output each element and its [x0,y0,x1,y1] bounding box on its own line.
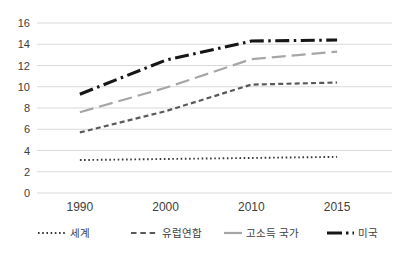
legend-item: 유럽연합 [131,226,202,240]
chart-legend: 세계유럽연합고소득 국가미국 [0,226,396,246]
y-axis-tick-label: 4 [24,145,30,157]
legend-label: 세계 [70,226,90,240]
x-axis-tick-label: 2010 [238,200,265,214]
legend-line-sample-icon [224,230,242,236]
plot-area: 02468101214161990200020102015 [0,0,396,222]
x-axis-tick-label: 2000 [152,200,179,214]
x-axis-tick-label: 2015 [324,200,351,214]
legend-label: 유럽연합 [162,226,202,240]
y-axis-tick-label: 0 [24,187,30,199]
series-line-3 [80,40,337,94]
legend-item: 세계 [38,226,90,240]
y-axis-tick-label: 2 [24,166,30,178]
series-line-0 [80,157,337,160]
legend-line-sample-icon [38,230,66,236]
legend-item: 미국 [327,226,378,240]
line-chart-figure: 02468101214161990200020102015 세계유럽연합고소득 … [0,0,396,254]
series-line-2 [80,52,337,113]
legend-line-sample-icon [327,230,354,236]
y-axis-tick-label: 14 [18,38,30,50]
y-axis-tick-label: 6 [24,123,30,135]
y-axis-tick-label: 10 [18,81,30,93]
legend-label: 고소득 국가 [246,226,299,240]
series-line-1 [80,83,337,133]
legend-label: 미국 [358,226,378,240]
y-axis-tick-label: 8 [24,102,30,114]
legend-line-sample-icon [131,230,158,236]
legend-item: 고소득 국가 [224,226,299,240]
y-axis-tick-label: 12 [18,60,30,72]
x-axis-tick-label: 1990 [67,200,94,214]
y-axis-tick-label: 16 [18,17,30,29]
